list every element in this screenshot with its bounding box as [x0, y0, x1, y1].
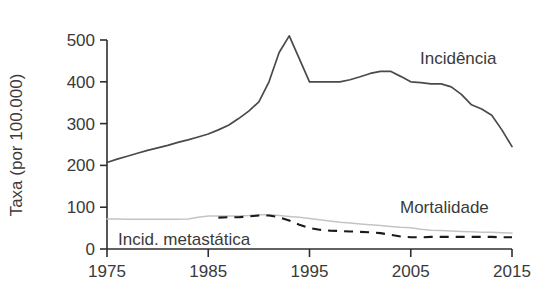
chart-container: 0100200300400500 19751985199520052015 Ta…: [0, 0, 550, 305]
y-axis-tick-label: 100: [67, 198, 95, 217]
line-chart: 0100200300400500 19751985199520052015 Ta…: [0, 0, 550, 305]
x-axis-tick-label: 2005: [392, 262, 430, 281]
y-axis-tick-label: 500: [67, 31, 95, 50]
series-label-incid-metastatica: Incid. metastática: [118, 230, 251, 249]
x-axis-tick-label: 2015: [493, 262, 531, 281]
x-axis-tick-label: 1975: [88, 262, 126, 281]
y-axis-tick-label: 400: [67, 73, 95, 92]
series-label-incidencia: Incidência: [420, 49, 497, 68]
y-axis-tick-label: 300: [67, 115, 95, 134]
x-axis-tick-label: 1985: [189, 262, 227, 281]
x-axis-tick-label: 1995: [291, 262, 329, 281]
y-axis-tick-label: 200: [67, 156, 95, 175]
series-label-mortalidade: Mortalidade: [400, 198, 489, 217]
y-axis-title: Taxa (por 100.000): [7, 74, 26, 217]
y-axis-tick-label: 0: [86, 240, 95, 259]
